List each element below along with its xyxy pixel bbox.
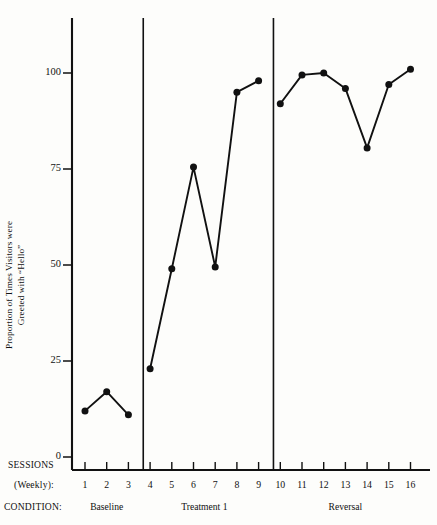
x-axis-session-number: 6: [184, 479, 204, 490]
data-point-marker: [147, 365, 154, 372]
x-axis-session-number: 8: [227, 479, 247, 490]
data-point-marker: [342, 85, 349, 92]
x-axis-session-number: 5: [162, 479, 182, 490]
x-axis-session-number: 16: [401, 479, 421, 490]
x-axis-session-number: 14: [357, 479, 377, 490]
y-axis-tick-label: 0: [56, 450, 61, 461]
data-point-marker: [212, 263, 219, 270]
chart-container: Proportion of Times Visitors were Greete…: [0, 0, 437, 525]
y-axis-tick-label: 50: [51, 258, 62, 269]
data-point-marker: [82, 407, 89, 414]
data-point-marker: [233, 89, 240, 96]
x-axis-session-number: 11: [292, 479, 312, 490]
x-axis-session-number: 4: [140, 479, 160, 490]
data-point-marker: [320, 70, 327, 77]
sessions-axis-label-line-1: SESSIONS: [8, 459, 54, 470]
data-point-marker: [299, 71, 306, 78]
data-point-marker: [277, 100, 284, 107]
x-axis-session-number: 1: [75, 479, 95, 490]
phase-condition-name: Treatment 1: [149, 501, 259, 512]
x-axis-session-number: 9: [249, 479, 269, 490]
y-axis-tick-label: 100: [45, 66, 61, 77]
data-point-marker: [190, 164, 197, 171]
x-axis-session-number: 2: [97, 479, 117, 490]
x-axis-session-number: 15: [379, 479, 399, 490]
y-axis-tick-label: 25: [51, 354, 62, 365]
data-line-treatment-1: [150, 81, 259, 369]
data-point-marker: [168, 265, 175, 272]
data-point-marker: [103, 388, 110, 395]
data-point-marker: [125, 411, 132, 418]
sessions-axis-label-line-2: (Weekly):: [14, 479, 54, 490]
data-line-reversal: [280, 69, 410, 148]
data-point-marker: [385, 81, 392, 88]
x-axis-session-number: 13: [335, 479, 355, 490]
data-point-marker: [255, 77, 262, 84]
data-point-marker: [407, 66, 414, 73]
x-axis-session-number: 7: [205, 479, 225, 490]
data-point-marker: [364, 144, 371, 151]
phase-condition-name: Reversal: [290, 501, 400, 512]
x-axis-session-number: 12: [314, 479, 334, 490]
phase-condition-name: Baseline: [52, 501, 162, 512]
x-axis-session-number: 3: [118, 479, 138, 490]
y-axis-tick-label: 75: [51, 162, 62, 173]
x-axis-session-number: 10: [270, 479, 290, 490]
chart-plot: [0, 0, 437, 525]
